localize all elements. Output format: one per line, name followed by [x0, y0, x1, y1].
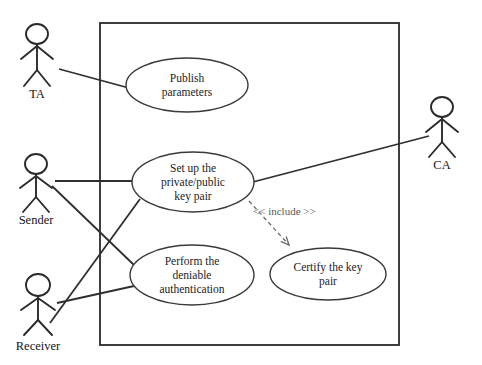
actor-label-ca: CA: [433, 158, 450, 172]
actor-label-sender: Sender: [19, 213, 55, 227]
use-case-label-perform-deniable-authentication: deniable: [173, 269, 212, 281]
use-case-label-publish-parameters: parameters: [162, 86, 213, 99]
use-case-label-set-up-key-pair: private/public: [161, 176, 225, 189]
actor-right-leg-icon-ca: [442, 142, 455, 157]
use-case-label-perform-deniable-authentication: authentication: [159, 283, 224, 295]
actor-label-receiver: Receiver: [16, 339, 61, 353]
actor-left-leg-icon-sender: [23, 197, 36, 212]
actor-left-arm-icon-sender: [20, 176, 36, 188]
use-case-label-set-up-key-pair: key pair: [174, 190, 212, 203]
actor-left-leg-icon-ca: [429, 142, 442, 157]
actor-right-leg-icon-ta: [37, 70, 50, 86]
actor-right-arm-icon-ca: [442, 119, 458, 132]
actor-head-icon-ta: [26, 24, 48, 44]
use-case-label-certify-key-pair: pair: [319, 275, 337, 288]
use-case-label-certify-key-pair: Certify the key: [294, 261, 363, 274]
association-ta-to-publish: [59, 69, 129, 88]
actor-label-ta: TA: [29, 87, 45, 101]
diagram-canvas: << include >>PublishparametersSet up the…: [0, 0, 482, 365]
actor-right-arm-icon-receiver: [38, 298, 55, 310]
actor-right-arm-icon-ta: [37, 46, 53, 59]
actor-head-icon-sender: [25, 154, 47, 174]
actor-head-icon-receiver: [26, 274, 50, 296]
actor-left-arm-icon-receiver: [21, 298, 38, 310]
association-receiver-to-setup: [50, 199, 140, 323]
actor-left-leg-icon-ta: [24, 70, 37, 86]
use-case-label-set-up-key-pair: Set up the: [170, 162, 216, 175]
actor-left-arm-icon-ta: [21, 46, 37, 59]
use-case-certify-key-pair[interactable]: [270, 248, 386, 300]
actor-head-icon-ca: [431, 97, 453, 117]
use-case-diagram: << include >>PublishparametersSet up the…: [0, 0, 482, 365]
actor-left-leg-icon-receiver: [24, 320, 38, 335]
use-case-label-publish-parameters: Publish: [170, 72, 205, 84]
actor-left-arm-icon-ca: [426, 119, 442, 132]
use-case-label-perform-deniable-authentication: Perform the: [165, 255, 220, 267]
include-stereotype-label: << include >>: [253, 205, 316, 217]
actor-right-leg-icon-sender: [36, 197, 49, 212]
actor-right-arm-icon-sender: [36, 176, 52, 188]
association-receiver-to-perform: [57, 286, 134, 303]
use-case-publish-parameters[interactable]: [126, 58, 248, 112]
association-setup-to-ca: [249, 136, 429, 183]
